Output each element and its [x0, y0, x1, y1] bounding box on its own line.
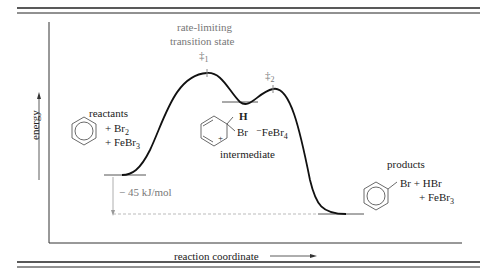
febr4-sub: 4 — [284, 132, 288, 141]
benzene-reactant-icon — [72, 117, 96, 145]
reactants-br2: + Br2 — [105, 123, 129, 137]
reactants-label: reactants — [89, 108, 128, 119]
febr3-sub: 3 — [136, 142, 140, 151]
reactants-febr3: + FeBr3 — [105, 137, 140, 151]
products-line2: + FeBr3 — [419, 192, 454, 206]
products-febr3-text: + FeBr — [419, 191, 450, 203]
br2-text: + Br — [105, 122, 125, 134]
rc-arrowhead-icon — [310, 254, 317, 258]
ts1-sub: 1 — [205, 55, 209, 64]
x-axis-label: reaction coordinate — [174, 251, 259, 262]
products-line1: Br + HBr — [400, 178, 442, 189]
intermediate-label: intermediate — [220, 149, 275, 160]
bromobenzene-icon — [364, 182, 397, 210]
febr4-text: ⁻FeBr — [256, 126, 284, 138]
febr3-text: + FeBr — [105, 136, 136, 148]
intermediate-plus: + — [218, 134, 223, 143]
intermediate-h: H — [239, 111, 248, 122]
products-febr3-sub: 3 — [450, 197, 454, 206]
ts1-label: ‡1 — [199, 50, 209, 64]
products-label: products — [387, 159, 425, 170]
ts1-title-line1: rate-limiting — [177, 22, 232, 33]
intermediate-counterion: ⁻FeBr4 — [256, 127, 288, 141]
y-axis-label: energy — [30, 110, 41, 140]
ts2-label: ‡2 — [265, 70, 275, 84]
delta-energy-label: − 45 kJ/mol — [119, 187, 172, 198]
energy-arrowhead-icon — [37, 92, 41, 99]
energy-diagram-graphics — [0, 0, 496, 275]
ts2-sub: 2 — [271, 75, 275, 84]
ts1-title-line2: transition state — [170, 36, 234, 47]
intermediate-br: Br — [237, 127, 248, 138]
delta-arrowhead-icon — [111, 210, 115, 216]
